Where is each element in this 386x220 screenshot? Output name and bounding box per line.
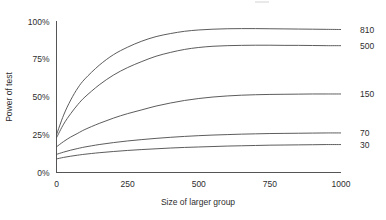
series-end-labels-group: 8105001507030 <box>360 25 374 150</box>
series-label-150: 150 <box>360 89 374 99</box>
x-tick-label: 500 <box>192 179 206 189</box>
x-tick-label: 750 <box>263 179 277 189</box>
x-tick-label: 1000 <box>332 179 351 189</box>
x-tick-label: 250 <box>121 179 135 189</box>
y-tick-label: 50% <box>32 92 49 102</box>
x-axis-title: Size of larger group <box>161 197 235 207</box>
chart-canvas: 0%25%50%75%100% 02505007501000 810500150… <box>0 0 386 220</box>
x-tick-label: 0 <box>54 179 59 189</box>
y-axis-title: Power of test <box>4 72 14 122</box>
power-curve-chart: 0%25%50%75%100% 02505007501000 810500150… <box>0 0 386 220</box>
series-line-30 <box>57 145 342 159</box>
series-line-150 <box>57 94 342 147</box>
series-label-30: 30 <box>360 140 370 150</box>
series-line-810 <box>57 29 342 135</box>
y-tick-label: 100% <box>28 17 50 27</box>
y-tick-label: 25% <box>32 130 49 140</box>
y-tick-label: 0% <box>37 168 50 178</box>
cropped-title-artifact <box>255 1 269 3</box>
y-axis-tick-labels: 0%25%50%75%100% <box>28 17 50 178</box>
series-label-500: 500 <box>360 41 374 51</box>
x-axis-tick-labels: 02505007501000 <box>54 179 351 189</box>
series-label-810: 810 <box>360 25 374 35</box>
series-line-70 <box>57 133 342 154</box>
series-lines-group <box>57 29 342 159</box>
series-label-70: 70 <box>360 128 370 138</box>
y-tick-label: 75% <box>32 54 49 64</box>
